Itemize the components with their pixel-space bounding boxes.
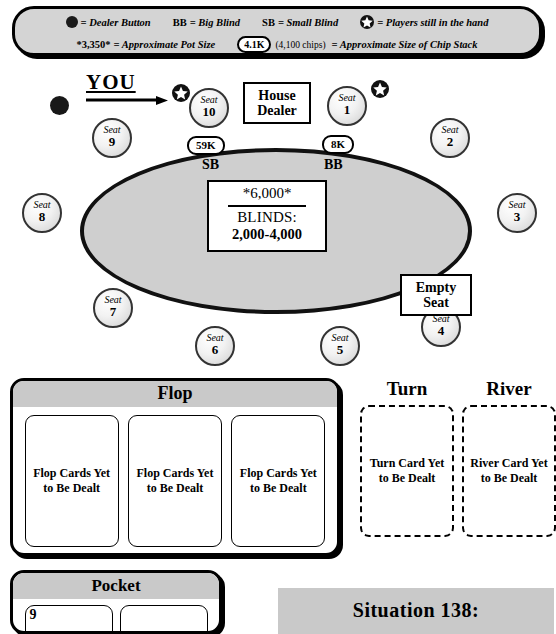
pocket-card-1[interactable]: 9 xyxy=(25,605,113,634)
you-label: YOU xyxy=(86,70,136,95)
flop-card-row: Flop Cards Yet to Be Dealt Flop Cards Ye… xyxy=(13,407,337,547)
pocket-card-2[interactable] xyxy=(120,605,208,634)
seat-9[interactable]: Seat 9 xyxy=(92,118,132,158)
legend-active-player: = Players still in the hand xyxy=(360,15,488,29)
seat-3-number: 3 xyxy=(499,210,535,223)
legend-dealer-button: = Dealer Button xyxy=(66,16,151,28)
big-blind-label: BB xyxy=(324,157,343,173)
blinds-label: BLINDS: xyxy=(209,209,325,226)
legend-panel: = Dealer Button BB = Big Blind SB = Smal… xyxy=(12,6,542,56)
situation-panel: Situation 138: xyxy=(278,588,554,634)
dealer-button-icon xyxy=(50,96,69,115)
seat-2[interactable]: Seat 2 xyxy=(430,118,470,158)
river-card[interactable]: River Card Yet to Be Dealt xyxy=(462,405,556,537)
seat-7-number: 7 xyxy=(95,305,131,318)
seat-9-number: 9 xyxy=(94,135,130,148)
empty-seat-box: Empty Seat xyxy=(400,274,472,316)
seat-8[interactable]: Seat 8 xyxy=(22,193,62,233)
legend-row-1: = Dealer Button BB = Big Blind SB = Smal… xyxy=(15,15,539,29)
board-area: Flop Flop Cards Yet to Be Dealt Flop Car… xyxy=(0,376,554,562)
pot-amount: *6,000* xyxy=(209,185,325,204)
flop-card-1[interactable]: Flop Cards Yet to Be Dealt xyxy=(25,415,119,547)
seat-1-number: 1 xyxy=(329,103,365,116)
legend-small-blind: SB = Small Blind xyxy=(262,17,338,28)
legend-pot-size-label: = Approximate Pot Size xyxy=(114,39,216,50)
legend-active-player-label: = Players still in the hand xyxy=(377,17,488,28)
pocket-title: Pocket xyxy=(13,573,219,599)
turn-column: Turn Turn Card Yet to Be Dealt xyxy=(360,378,454,537)
blinds-value: 2,000-4,000 xyxy=(209,226,325,243)
flop-card-2[interactable]: Flop Cards Yet to Be Dealt xyxy=(128,415,222,547)
legend-big-blind-label: = Big Blind xyxy=(190,17,240,28)
flop-title: Flop xyxy=(13,381,337,407)
poker-table-area: YOU House Dealer Empty Seat Seat 10 Seat… xyxy=(0,60,554,370)
turn-card[interactable]: Turn Card Yet to Be Dealt xyxy=(360,405,454,537)
star-icon-seat-1 xyxy=(371,80,389,98)
situation-title: Situation 138: xyxy=(278,588,554,632)
seat-5[interactable]: Seat 5 xyxy=(320,326,360,366)
you-arrow-icon xyxy=(86,96,168,105)
seat-3[interactable]: Seat 3 xyxy=(497,193,537,233)
house-dealer-box: House Dealer xyxy=(243,82,311,124)
pot-divider xyxy=(228,205,306,207)
legend-big-blind: BB = Big Blind xyxy=(173,17,240,28)
seat-5-number: 5 xyxy=(322,343,358,356)
legend-chip-example: 4.1K xyxy=(237,36,271,53)
legend-row-2: *3,350* = Approximate Pot Size 4.1K (4,1… xyxy=(15,36,539,53)
seat-6[interactable]: Seat 6 xyxy=(195,326,235,366)
legend-dealer-button-label: = Dealer Button xyxy=(81,17,151,28)
sb-abbrev: SB xyxy=(262,17,275,28)
seat-10-number: 10 xyxy=(191,105,227,118)
pocket-panel: Pocket 9 xyxy=(10,570,222,634)
small-blind-label: SB xyxy=(202,157,219,173)
chip-stack-seat-1: 8K xyxy=(322,135,354,154)
star-icon-you xyxy=(172,84,190,102)
legend-small-blind-label: = Small Blind xyxy=(278,17,338,28)
seat-10[interactable]: Seat 10 xyxy=(189,88,229,128)
seat-6-number: 6 xyxy=(197,343,233,356)
river-title: River xyxy=(462,378,556,400)
seat-1[interactable]: Seat 1 xyxy=(327,86,367,126)
seat-2-number: 2 xyxy=(432,135,468,148)
star-icon xyxy=(360,15,374,29)
dealer-button-icon xyxy=(66,16,78,28)
chip-stack-seat-10: 59K xyxy=(187,136,225,155)
legend-chip-stack-label: = Approximate Size of Chip Stack xyxy=(332,39,478,50)
turn-title: Turn xyxy=(360,378,454,400)
flop-card-3[interactable]: Flop Cards Yet to Be Dealt xyxy=(231,415,325,547)
legend-pot-example: *3,350* xyxy=(76,39,110,50)
legend-chip-paren: (4,100 chips) xyxy=(275,40,325,50)
pocket-card-row: 9 xyxy=(13,599,219,634)
legend-chip-stack: 4.1K (4,100 chips) = Approximate Size of… xyxy=(237,36,477,53)
seat-4-number: 4 xyxy=(423,324,459,337)
seat-8-number: 8 xyxy=(24,210,60,223)
river-column: River River Card Yet to Be Dealt xyxy=(462,378,556,537)
seat-7[interactable]: Seat 7 xyxy=(93,288,133,328)
pot-box: *6,000* BLINDS: 2,000-4,000 xyxy=(207,180,327,252)
flop-panel: Flop Flop Cards Yet to Be Dealt Flop Car… xyxy=(10,378,340,556)
legend-pot-size: *3,350* = Approximate Pot Size xyxy=(76,39,215,50)
bb-abbrev: BB xyxy=(173,17,187,28)
